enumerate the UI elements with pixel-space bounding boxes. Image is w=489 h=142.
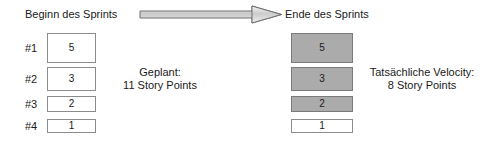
sprint-velocity-diagram: Beginn des Sprints Ende des Sprints #1 [0, 0, 489, 142]
planned-box-4: 1 [47, 119, 96, 133]
planned-caption: Geplant: 11 Story Points [108, 66, 212, 92]
actual-box-4: 1 [291, 119, 353, 133]
backlog-row: #3 2 2 [0, 96, 489, 112]
actual-caption: Tatsächliche Velocity: 8 Story Points [357, 66, 487, 92]
actual-box-1: 5 [291, 33, 353, 63]
backlog-row: #1 5 5 [0, 33, 489, 63]
row-label-1: #1 [25, 43, 37, 54]
row-label-2: #2 [25, 74, 37, 85]
sprint-start-label: Beginn des Sprints [25, 8, 117, 20]
row-label-4: #4 [25, 121, 37, 132]
right-arrow-icon [139, 5, 283, 24]
actual-box-2: 3 [291, 67, 353, 91]
planned-box-1: 5 [47, 33, 96, 63]
planned-caption-value: 11 Story Points [108, 79, 212, 92]
actual-caption-value: 8 Story Points [357, 79, 487, 92]
planned-box-3: 2 [47, 96, 96, 112]
backlog-row: #4 1 1 [0, 119, 489, 133]
actual-box-3: 2 [291, 96, 353, 112]
row-label-3: #3 [25, 99, 37, 110]
planned-caption-title: Geplant: [108, 66, 212, 79]
planned-box-2: 3 [47, 67, 96, 91]
sprint-end-label: Ende des Sprints [285, 8, 369, 20]
actual-caption-title: Tatsächliche Velocity: [357, 66, 487, 79]
